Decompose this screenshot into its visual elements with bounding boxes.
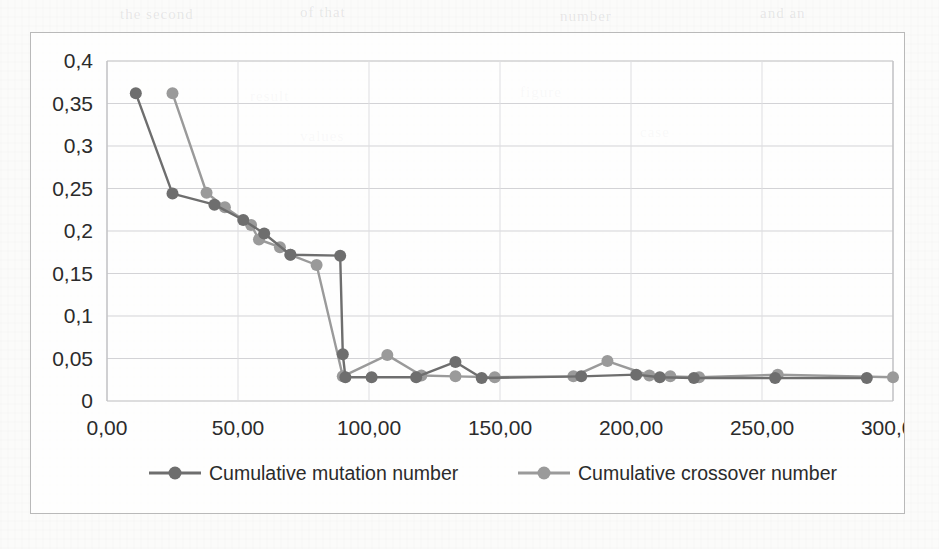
data-point[interactable] (167, 87, 179, 99)
x-tick-label-6: 300,00 (861, 416, 904, 439)
data-point[interactable] (334, 250, 346, 262)
bleed-text-2: number (560, 8, 612, 25)
legend-label: Cumulative crossover number (578, 462, 838, 484)
data-point[interactable] (237, 214, 249, 226)
data-point[interactable] (601, 355, 613, 367)
y-tick-label-7: 0,35 (52, 92, 93, 115)
bleed-text-3: and an (760, 5, 806, 22)
x-tick-label-0: 0,00 (87, 416, 128, 439)
y-tick-label-1: 0,05 (52, 347, 93, 370)
bleed-text-1: of that (300, 4, 346, 21)
series-crossover[interactable] (167, 87, 900, 383)
x-tick-label-5: 250,00 (730, 416, 794, 439)
data-point[interactable] (337, 348, 349, 360)
y-tick-label-8: 0,4 (64, 49, 94, 72)
data-point[interactable] (654, 371, 666, 383)
series-line (136, 93, 867, 378)
data-point[interactable] (130, 87, 142, 99)
data-point[interactable] (167, 188, 179, 200)
data-point[interactable] (630, 369, 642, 381)
data-point[interactable] (449, 370, 461, 382)
data-point[interactable] (769, 372, 781, 384)
data-point[interactable] (575, 370, 587, 382)
data-point[interactable] (208, 199, 220, 211)
data-point[interactable] (284, 249, 296, 261)
data-point[interactable] (449, 356, 461, 368)
y-axis-tick-labels: 00,050,10,150,20,250,30,350,4 (52, 49, 93, 412)
data-point[interactable] (258, 228, 270, 240)
y-tick-label-5: 0,25 (52, 177, 93, 200)
data-point[interactable] (201, 187, 213, 199)
gridlines (107, 61, 893, 401)
x-axis-tick-labels: 0,0050,00100,00150,00200,00250,00300,00 (87, 416, 904, 439)
chart-legend[interactable]: Cumulative mutation numberCumulative cro… (149, 462, 838, 484)
y-tick-label-3: 0,15 (52, 262, 93, 285)
data-point[interactable] (476, 372, 488, 384)
data-point[interactable] (366, 371, 378, 383)
legend-item-crossover[interactable]: Cumulative crossover number (518, 462, 838, 484)
series-line (173, 93, 894, 377)
data-point[interactable] (311, 259, 323, 271)
legend-marker-icon (538, 467, 551, 480)
x-tick-label-2: 100,00 (337, 416, 401, 439)
data-point[interactable] (381, 349, 393, 361)
data-point[interactable] (410, 371, 422, 383)
legend-label: Cumulative mutation number (209, 462, 459, 484)
line-chart[interactable]: 00,050,10,150,20,250,30,350,4 0,0050,001… (31, 33, 904, 513)
y-tick-label-2: 0,1 (64, 304, 93, 327)
data-series-layer[interactable] (130, 87, 899, 384)
x-tick-label-4: 200,00 (599, 416, 663, 439)
legend-marker-icon (169, 467, 182, 480)
data-point[interactable] (887, 371, 899, 383)
y-tick-label-4: 0,2 (64, 219, 93, 242)
data-point[interactable] (861, 372, 873, 384)
data-point[interactable] (688, 372, 700, 384)
series-mutation[interactable] (130, 87, 873, 384)
x-tick-label-1: 50,00 (212, 416, 265, 439)
x-tick-label-3: 150,00 (468, 416, 532, 439)
y-tick-label-0: 0 (81, 389, 93, 412)
data-point[interactable] (339, 371, 351, 383)
y-tick-label-6: 0,3 (64, 134, 93, 157)
legend-item-mutation[interactable]: Cumulative mutation number (149, 462, 459, 484)
chart-frame: 00,050,10,150,20,250,30,350,4 0,0050,001… (30, 32, 905, 514)
bleed-text-0: the second (120, 6, 194, 23)
